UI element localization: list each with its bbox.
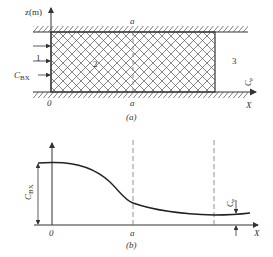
top-wall-hatch bbox=[33, 26, 248, 32]
cbx-label: CBX bbox=[23, 184, 35, 200]
x-axis-label: X bbox=[245, 100, 252, 110]
outflow-concentration-label: Ce bbox=[244, 78, 254, 86]
a-label-bottom: a bbox=[130, 98, 135, 108]
svg-text:Ce: Ce bbox=[244, 78, 254, 86]
x-axis-label: X bbox=[253, 228, 260, 238]
region-3-label: 3 bbox=[232, 56, 237, 66]
bottom-wall-hatch bbox=[33, 92, 248, 98]
z-axis-label: z(m) bbox=[25, 7, 42, 17]
figure-b-caption: (b) bbox=[126, 240, 137, 250]
region-2-label: 2 bbox=[93, 59, 98, 69]
a-label: a bbox=[130, 228, 135, 238]
origin-label: 0 bbox=[49, 228, 54, 238]
region-1-label: 1 bbox=[36, 53, 41, 63]
origin-label: 0 bbox=[47, 98, 52, 108]
a-label-top: a bbox=[130, 16, 135, 26]
concentration-curve bbox=[38, 162, 250, 215]
diagram-canvas: z(m) a a 0 1 2 3 CBX Ce X (a) bbox=[0, 0, 273, 257]
figure-a-caption: (a) bbox=[126, 112, 137, 122]
inflow-concentration-label: CBX bbox=[14, 70, 30, 82]
svg-text:CBX: CBX bbox=[23, 184, 35, 200]
figure-b: CBX Ce 0 a X (b) bbox=[23, 140, 260, 250]
ce-label: Ce bbox=[226, 199, 236, 207]
svg-text:Ce: Ce bbox=[226, 199, 236, 207]
figure-a: z(m) a a 0 1 2 3 CBX Ce X (a) bbox=[14, 7, 256, 122]
